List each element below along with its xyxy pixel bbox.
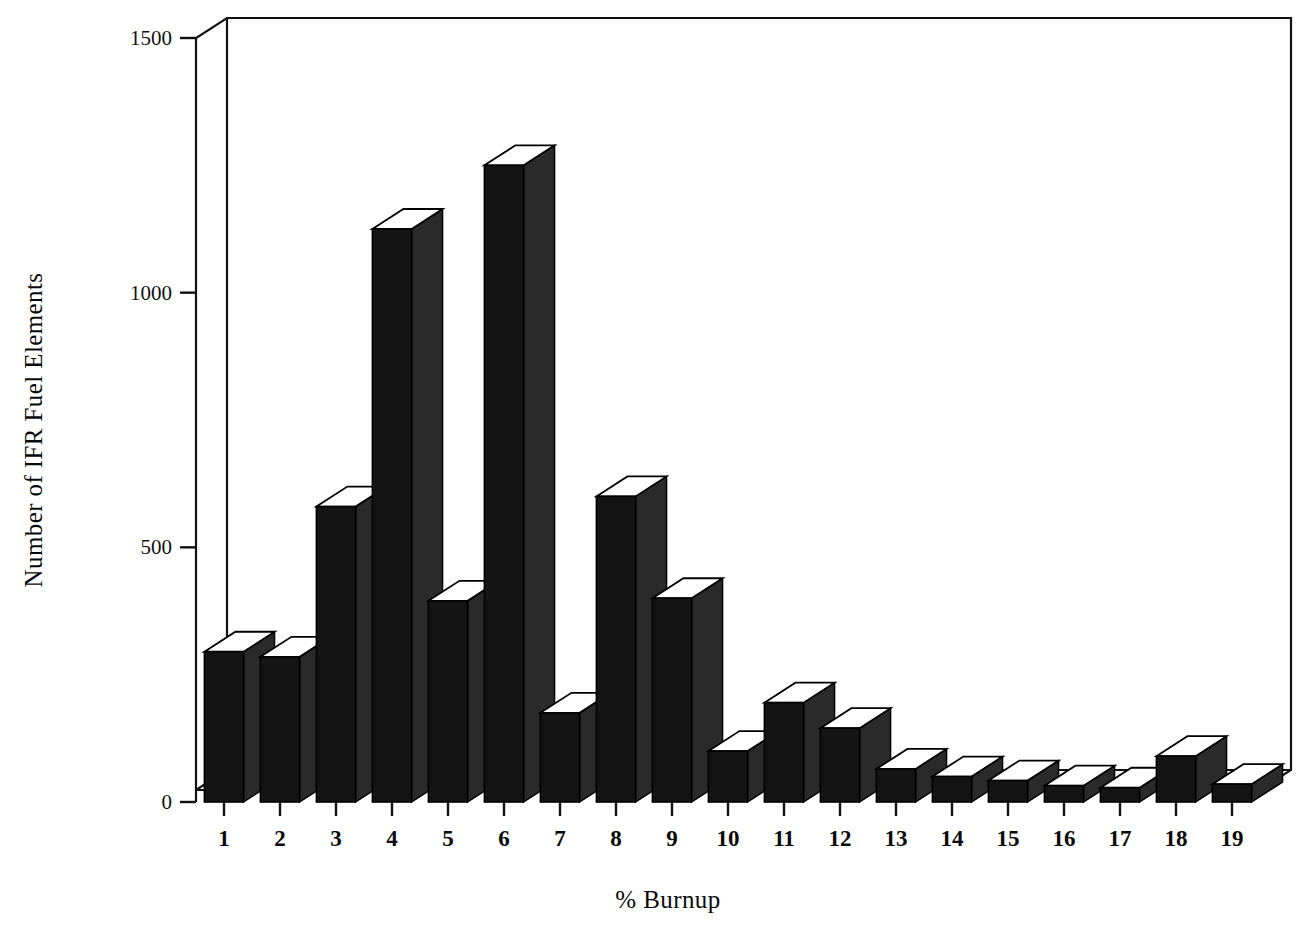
x-tick-label: 18 [1165, 826, 1188, 851]
bar-front-face [540, 713, 579, 802]
y-tick-label: 1000 [130, 281, 172, 305]
bar-front-face [1100, 788, 1139, 802]
bar-front-face [820, 728, 859, 802]
bar-side-face [524, 145, 555, 802]
x-tick-label: 17 [1109, 826, 1132, 851]
x-axis: 12345678910111213141516171819 [218, 802, 1243, 851]
x-tick-label: 2 [274, 826, 286, 851]
bar-front-face [988, 781, 1027, 802]
y-tick-label: 500 [141, 535, 173, 559]
bar-front-face [484, 165, 523, 802]
bar-front-face [1156, 756, 1195, 802]
bar-6 [484, 145, 554, 802]
bar-front-face [1044, 786, 1083, 802]
x-tick-label: 15 [997, 826, 1020, 851]
x-tick-label: 5 [442, 826, 454, 851]
bar-front-face [1212, 784, 1251, 802]
bar-front-face [932, 777, 971, 802]
bar-chart: 050010001500 123456789101112131415161718… [0, 0, 1308, 947]
bar-front-face [316, 507, 355, 802]
x-axis-title: % Burnup [615, 886, 720, 913]
bar-front-face [708, 751, 747, 802]
x-tick-label: 10 [717, 826, 740, 851]
x-tick-label: 16 [1053, 826, 1076, 851]
x-tick-label: 13 [885, 826, 908, 851]
x-tick-label: 12 [829, 826, 852, 851]
y-tick-label: 0 [162, 790, 173, 814]
x-tick-label: 4 [386, 826, 398, 851]
bar-front-face [764, 703, 803, 802]
x-tick-label: 8 [610, 826, 622, 851]
bar-front-face [428, 601, 467, 802]
x-tick-label: 19 [1221, 826, 1244, 851]
bar-front-face [652, 598, 691, 802]
bar-front-face [372, 229, 411, 802]
x-tick-label: 3 [330, 826, 342, 851]
y-tick-label: 1500 [130, 26, 172, 50]
x-tick-label: 1 [218, 826, 230, 851]
x-tick-label: 14 [941, 826, 965, 851]
x-tick-label: 9 [666, 826, 678, 851]
bar-front-face [260, 657, 299, 802]
y-axis: 050010001500 [130, 26, 196, 814]
x-tick-label: 7 [554, 826, 566, 851]
y-axis-title: Number of IFR Fuel Elements [20, 273, 47, 588]
chart-page: 050010001500 123456789101112131415161718… [0, 0, 1308, 947]
bar-front-face [876, 769, 915, 802]
bar-front-face [596, 496, 635, 802]
bars-group [204, 145, 1282, 802]
x-tick-label: 6 [498, 826, 510, 851]
bar-front-face [204, 652, 243, 802]
x-tick-label: 11 [773, 826, 795, 851]
